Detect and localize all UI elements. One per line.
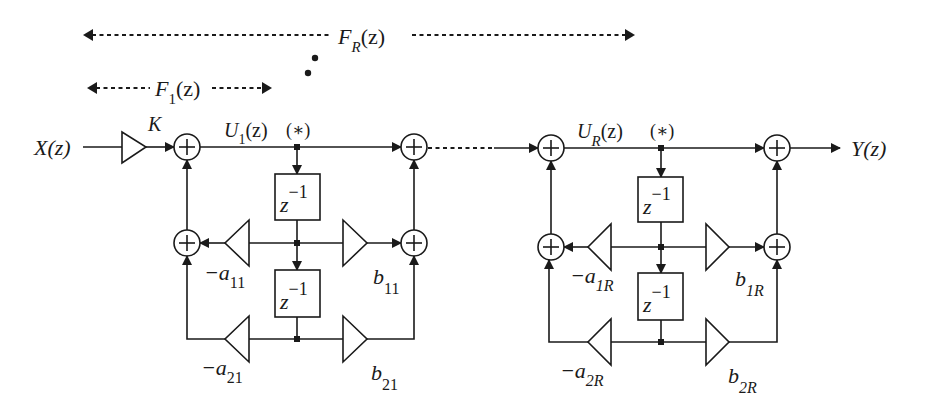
arrow-right-icon (262, 82, 272, 94)
adder-mid-left (174, 230, 200, 256)
gain-K-amplifier (122, 132, 146, 163)
input-label: X(z) (33, 135, 71, 160)
adder-top-left (174, 134, 200, 160)
b21-label: b21 (371, 360, 398, 393)
U1-label: U1(z) (224, 119, 268, 147)
star-marker-R: (∗) (650, 121, 674, 142)
adder-top-right-R (764, 135, 790, 161)
b2R-label: b2R (728, 363, 757, 396)
arrow-left-icon (87, 82, 97, 94)
amp-b21 (343, 316, 367, 362)
adder-mid-right-R (764, 234, 790, 260)
b1R-label: b1R (735, 266, 764, 299)
FR-label: FR(z) (337, 24, 385, 55)
UR-label: UR(z) (577, 120, 623, 149)
F1-label: F1(z) (154, 76, 200, 107)
span-arrow-F1: F1(z) (87, 76, 272, 107)
adder-mid-left-R (538, 234, 564, 260)
arrow-right-icon (625, 29, 635, 41)
arrow-left-icon (83, 29, 93, 41)
a2R-label: −a2R (560, 358, 604, 389)
adder-top-left-R (538, 135, 564, 161)
star-marker: (∗) (286, 120, 310, 141)
amp-b11 (343, 220, 367, 266)
a11-label: −a11 (204, 260, 245, 291)
a21-label: −a21 (201, 355, 243, 386)
gain-label: K (147, 113, 163, 135)
ellipsis-dots (305, 55, 318, 76)
stage-1: U1(z) (∗) z−1 −a11 b11 z−1 (174, 119, 427, 393)
b11-label: b11 (373, 264, 399, 297)
adder-mid-right (401, 230, 427, 256)
amp-a21 (225, 316, 249, 362)
output-label: Y(z) (851, 136, 886, 161)
a1R-label: −a1R (570, 263, 614, 294)
span-arrow-FR: FR(z) (83, 24, 635, 55)
amp-b1R (706, 224, 729, 270)
filter-block-diagram: FR(z) F1(z) X(z) K U1(z) (∗) z−1 (0, 0, 926, 407)
amp-b2R (706, 319, 729, 365)
stage-R: UR(z) (∗) z−1 −a1R b1R z−1 (538, 120, 790, 396)
adder-top-right (401, 134, 427, 160)
amp-a2R (588, 319, 611, 365)
